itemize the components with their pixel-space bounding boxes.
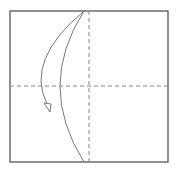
origami-diagram bbox=[0, 0, 177, 171]
